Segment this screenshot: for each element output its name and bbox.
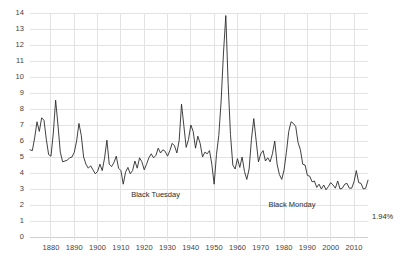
y-tick-label-2: 2 xyxy=(6,200,24,209)
x-tick-label-1950: 1950 xyxy=(201,243,227,252)
y-tick-label-1: 1 xyxy=(6,216,24,225)
y-tick-label-8: 8 xyxy=(6,104,24,113)
x-tick-label-1910: 1910 xyxy=(108,243,134,252)
chart-canvas xyxy=(0,0,407,267)
x-tick-label-1930: 1930 xyxy=(155,243,181,252)
y-tick-label-12: 12 xyxy=(6,40,24,49)
y-tick-label-11: 11 xyxy=(6,56,24,65)
x-tick-label-2000: 2000 xyxy=(318,243,344,252)
annotation-black-monday: Black Monday xyxy=(268,200,315,209)
y-tick-label-3: 3 xyxy=(6,184,24,193)
y-tick-label-13: 13 xyxy=(6,24,24,33)
x-tick-label-1920: 1920 xyxy=(131,243,157,252)
y-tick-label-9: 9 xyxy=(6,88,24,97)
gridlines xyxy=(30,13,368,241)
x-tick-label-1880: 1880 xyxy=(38,243,64,252)
annotation-final-value: 1.94% xyxy=(372,212,393,221)
y-tick-label-0: 0 xyxy=(6,232,24,241)
x-tick-label-1960: 1960 xyxy=(224,243,250,252)
y-tick-label-14: 14 xyxy=(6,8,24,17)
y-tick-label-10: 10 xyxy=(6,72,24,81)
x-tick-label-1940: 1940 xyxy=(178,243,204,252)
x-tick-label-1890: 1890 xyxy=(61,243,87,252)
y-tick-label-7: 7 xyxy=(6,120,24,129)
y-tick-label-6: 6 xyxy=(6,136,24,145)
x-tick-label-1980: 1980 xyxy=(271,243,297,252)
annotation-black-tuesday: Black Tuesday xyxy=(131,190,180,199)
x-tick-label-1990: 1990 xyxy=(294,243,320,252)
x-tick-label-2010: 2010 xyxy=(341,243,367,252)
data-series xyxy=(30,16,368,190)
line-chart: 01234567891011121314 1880189019001910192… xyxy=(0,0,407,267)
y-tick-label-4: 4 xyxy=(6,168,24,177)
x-tick-label-1900: 1900 xyxy=(85,243,111,252)
y-tick-label-5: 5 xyxy=(6,152,24,161)
x-tick-label-1970: 1970 xyxy=(248,243,274,252)
